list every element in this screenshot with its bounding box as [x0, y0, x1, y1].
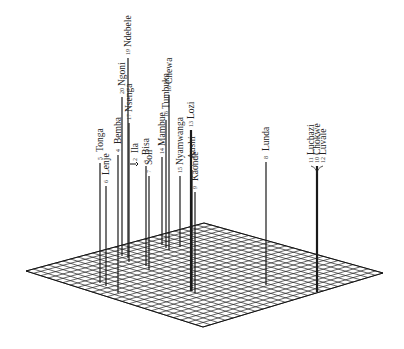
- spike-label: Tonga: [95, 128, 105, 152]
- spike-label: Lozi: [186, 101, 196, 119]
- spike-number: 18: [166, 86, 172, 92]
- spike-number: 9: [192, 186, 198, 189]
- spike-label: Nsenga: [124, 83, 134, 112]
- grid-line: [144, 256, 323, 308]
- spike-plot: 5Tonga6Lenje4Bemba20Ngoni19Ndebele17Nsen…: [0, 0, 404, 349]
- spike-number: 16: [163, 111, 169, 117]
- spike-number: 19: [125, 49, 131, 55]
- spike-number: 15: [177, 167, 183, 173]
- spike-nyamwanga: 15Nyamwanga: [175, 116, 185, 247]
- spike-tonga: 5Tonga: [95, 128, 105, 283]
- spike-number: 8: [263, 156, 269, 159]
- spike-number: 13: [188, 121, 194, 127]
- spike-label: Soli: [144, 149, 154, 165]
- grid-line: [137, 254, 316, 306]
- spike-ila: 2Ila: [130, 142, 140, 166]
- base-grid: [26, 223, 383, 327]
- spike-lenje: 6Lenje: [101, 153, 111, 286]
- grid-line: [130, 243, 308, 296]
- spike-ndebele: 19Ndebele: [123, 15, 133, 258]
- spike-number: 7: [146, 170, 152, 173]
- spike-label: Ila: [130, 142, 140, 153]
- spike-number: 6: [103, 180, 109, 183]
- spike-number: 2: [132, 158, 138, 161]
- grid-line: [151, 258, 330, 310]
- spike-label: Luvale: [318, 129, 328, 155]
- arrow-marker: [130, 162, 138, 166]
- spike-luvale: 12Luvale: [317, 129, 328, 174]
- spike-label: Lenje: [101, 153, 111, 175]
- spike-label: Ndebele: [123, 15, 133, 47]
- spike-number: 4: [115, 149, 121, 152]
- spike-label: Chewa: [164, 57, 174, 84]
- spike-label: Ngoni: [117, 62, 127, 86]
- spike-label: Lunda: [261, 126, 271, 151]
- spike-label: Nyamwanga: [175, 116, 185, 165]
- spike-number: 17: [126, 114, 132, 120]
- spike-number: 12: [320, 157, 326, 163]
- grid-line: [137, 241, 315, 293]
- spike-number: 14: [159, 148, 165, 154]
- grid-line: [145, 239, 323, 291]
- spike-nsenga: 17Nsenga: [124, 83, 134, 262]
- spike-label: Kaonde: [190, 151, 200, 181]
